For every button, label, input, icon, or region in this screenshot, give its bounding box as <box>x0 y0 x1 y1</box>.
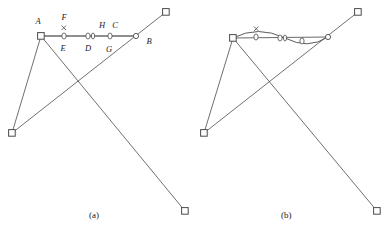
panel-b-cross-marker-F <box>254 27 259 32</box>
panel-b-node-F <box>254 34 258 40</box>
panel-b-square-A <box>230 35 237 42</box>
panel-a-square-bottom-left <box>9 130 16 137</box>
panel-a-label-A: A <box>34 16 41 26</box>
panel-b-square-top-right <box>355 9 362 16</box>
panel-a-diagonal-falling <box>41 36 185 211</box>
panel-a-label-D: D <box>84 43 92 53</box>
panel-b-node-G <box>300 38 304 44</box>
panel-a-node-D <box>86 33 90 39</box>
panel-b-node-D2 <box>283 35 286 41</box>
panel-a-diagonal-rising <box>12 12 166 133</box>
panel-a: A F E D H C G B <box>9 9 189 215</box>
panel-a-square-bottom-right <box>182 208 189 215</box>
panel-b <box>201 9 381 215</box>
geometric-figure: A F E D H C G B <box>0 0 385 236</box>
panel-b-node-D <box>278 35 282 41</box>
panel-a-label-H: H <box>98 20 106 30</box>
panel-a-label-G: G <box>106 44 112 54</box>
panel-b-diagonal-rising <box>204 12 358 133</box>
panel-b-diagonal-falling <box>233 38 377 211</box>
panel-b-caption: (b) <box>281 210 292 220</box>
panel-a-label-F: F <box>60 12 67 22</box>
panel-a-left-leg <box>12 36 41 133</box>
panel-a-node-F <box>62 33 66 39</box>
panel-b-node-B <box>325 34 330 39</box>
panel-b-square-bottom-left <box>201 130 208 137</box>
panel-a-caption: (a) <box>89 210 99 220</box>
panel-a-node-G <box>108 33 112 39</box>
panel-b-left-leg <box>204 38 233 133</box>
panel-a-cross-marker-F <box>62 26 67 31</box>
panel-a-label-B: B <box>146 36 151 46</box>
panel-a-square-top-right <box>163 9 170 16</box>
panel-a-node-D2 <box>91 33 94 39</box>
panel-a-label-E: E <box>59 43 66 53</box>
panel-b-square-bottom-right <box>374 208 381 215</box>
panel-a-node-B <box>133 33 138 38</box>
panel-a-label-C: C <box>112 20 118 30</box>
panel-a-square-A <box>38 33 45 40</box>
